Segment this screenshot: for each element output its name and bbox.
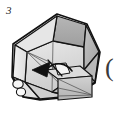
origami-step-figure: 3 — [0, 0, 120, 118]
corner-tab-lower — [16, 88, 25, 96]
step-number-label: 3 — [5, 4, 12, 16]
side-parenthesis-mark: ( — [105, 53, 114, 82]
back-top-face — [53, 16, 86, 47]
corner-tab-upper — [13, 80, 23, 89]
figure-canvas: 3 — [0, 0, 120, 118]
flap-front-face — [58, 76, 92, 100]
left-wall — [13, 45, 27, 82]
